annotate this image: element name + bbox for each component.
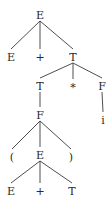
tree-node-label: *	[70, 81, 76, 94]
tree-edges	[11, 21, 103, 183]
tree-nodes: EE+TT*FFi(E)E+T	[7, 9, 106, 198]
parse-tree: EE+TT*FFi(E)E+T	[0, 0, 112, 204]
tree-edge	[40, 121, 71, 149]
tree-edge	[40, 161, 72, 183]
tree-node-label: +	[35, 185, 44, 198]
tree-node-label: T	[68, 185, 76, 198]
tree-node-label: T	[36, 80, 44, 93]
tree-edge	[11, 161, 40, 183]
tree-node-label: (	[10, 151, 14, 164]
tree-node-label: E	[7, 185, 15, 198]
tree-node-label: +	[35, 51, 44, 64]
tree-node-label: E	[7, 51, 15, 64]
tree-node-label: E	[36, 149, 44, 162]
tree-node-label: F	[36, 109, 44, 122]
tree-edge	[40, 63, 73, 78]
tree-node-label: )	[69, 151, 73, 164]
tree-node-label: T	[69, 51, 77, 64]
tree-edge	[40, 21, 73, 49]
tree-edge	[12, 121, 40, 149]
tree-node-label: E	[36, 9, 44, 22]
tree-edge	[73, 63, 102, 78]
tree-node-label: i	[101, 114, 105, 127]
tree-node-label: F	[98, 80, 106, 93]
tree-edge	[102, 92, 103, 112]
tree-edge	[11, 21, 40, 49]
